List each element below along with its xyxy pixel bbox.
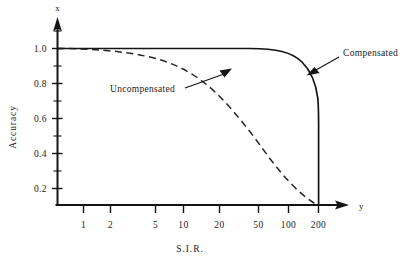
- y-tick-labels: 1.0 0.8 0.6 0.4 0.2: [34, 44, 47, 194]
- x-tick-label: 10: [178, 220, 188, 230]
- compensated-label: Compensated: [343, 48, 398, 58]
- chart-figure: Compensated Uncompensated 1.0 0.8 0.6 0.…: [0, 0, 410, 267]
- x-axis-title: S.I.R.: [176, 244, 203, 254]
- uncompensated-label: Uncompensated: [110, 84, 175, 94]
- uncompensated-arrowhead: [220, 69, 233, 78]
- series-uncompensated-curve: [58, 49, 319, 206]
- x-tick-label: 100: [281, 220, 296, 230]
- y-axis-variable-label: x: [55, 3, 60, 13]
- axes-group: [53, 17, 349, 209]
- annotation-compensated: Compensated: [307, 48, 399, 76]
- x-tick-label: 20: [214, 220, 224, 230]
- y-tick-label: 1.0: [34, 44, 47, 54]
- x-axis-ticks: [84, 205, 319, 213]
- y-tick-label: 0.8: [34, 79, 47, 89]
- y-tick-label: 0.2: [34, 184, 47, 194]
- chart-canvas: Compensated Uncompensated 1.0 0.8 0.6 0.…: [0, 0, 410, 267]
- x-tick-label: 5: [153, 220, 158, 230]
- x-axis-variable-label: y: [359, 201, 364, 211]
- uncompensated-leader-line: [185, 74, 224, 88]
- x-tick-labels: 1 2 5 10 20 50 100 200: [81, 220, 326, 230]
- compensated-leader-line: [316, 57, 339, 70]
- y-tick-label: 0.4: [34, 149, 47, 159]
- series-compensated-curve: [58, 49, 319, 206]
- y-tick-label: 0.6: [34, 114, 47, 124]
- x-tick-label: 200: [311, 220, 326, 230]
- x-tick-label: 2: [108, 220, 113, 230]
- x-tick-label: 50: [253, 220, 263, 230]
- x-tick-label: 1: [81, 220, 86, 230]
- y-axis-title: Accuracy: [8, 105, 18, 149]
